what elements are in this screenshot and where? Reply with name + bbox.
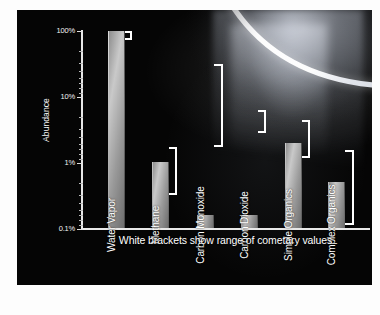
y-tick-minor: [79, 93, 83, 94]
bar-methane: Methane: [152, 162, 169, 228]
y-tick-minor: [79, 117, 83, 118]
figure-caption: White brackets show range of cometary va…: [81, 234, 370, 246]
y-tick-minor: [79, 88, 83, 89]
y-tick-major-0p1: [77, 229, 83, 230]
y-tick-minor: [79, 195, 83, 196]
y-tick-minor: [79, 137, 83, 138]
y-tick-minor: [79, 210, 83, 211]
y-tick-minor: [79, 71, 83, 72]
bracket-carbon-monoxide: [214, 64, 223, 147]
y-tick-minor: [79, 220, 83, 221]
bar-complex-organics: Complex Organics: [328, 182, 345, 228]
y-tick-minor: [79, 159, 83, 160]
y-tick-minor: [79, 78, 83, 79]
bar-carbon-dioxide: Carbon Dioxide: [241, 215, 258, 228]
bar-label-carbon-dioxide: Carbon Dioxide: [239, 191, 250, 259]
y-tick-label-1: 1%: [65, 158, 75, 167]
bracket-carbon-dioxide: [258, 110, 266, 133]
y-axis-line: [81, 30, 83, 230]
y-tick-minor: [79, 149, 83, 150]
bar-carbon-monoxide: Carbon Monoxide: [197, 215, 214, 228]
y-tick-minor: [79, 225, 83, 226]
y-tick-minor: [79, 215, 83, 216]
figure-panel: 100% 10% 1% 0.1% Abundance Water Vapor M…: [17, 10, 372, 285]
bar-label-complex-organics: Complex Organics: [326, 185, 337, 266]
bracket-methane: [169, 147, 177, 195]
bar-label-carbon-monoxide: Carbon Monoxide: [195, 186, 206, 263]
y-tick-label-0p1: 0.1%: [59, 224, 75, 233]
y-tick-minor: [79, 83, 83, 84]
y-tick-minor: [79, 129, 83, 130]
y-tick-major-100: [77, 31, 83, 32]
y-tick-minor: [79, 183, 83, 184]
bracket-water-vapor: [125, 31, 132, 40]
y-axis-title: Abundance: [41, 85, 51, 155]
y-tick-label-10: 10%: [61, 92, 75, 101]
y-tick-minor: [79, 154, 83, 155]
bracket-simple-organics: [302, 120, 310, 158]
bracket-complex-organics: [345, 150, 354, 225]
y-tick-major-1: [77, 163, 83, 164]
y-tick-minor: [79, 63, 83, 64]
page-root: 100% 10% 1% 0.1% Abundance Water Vapor M…: [0, 0, 380, 315]
y-tick-label-100: 100%: [57, 26, 75, 35]
y-tick-minor: [79, 51, 83, 52]
y-tick-minor: [79, 203, 83, 204]
y-tick-minor: [79, 144, 83, 145]
bar-simple-organics: Simple Organics: [285, 143, 302, 228]
bar-label-simple-organics: Simple Organics: [283, 189, 294, 261]
bar-water-vapor: Water Vapor: [108, 31, 125, 228]
y-tick-major-10: [77, 97, 83, 98]
